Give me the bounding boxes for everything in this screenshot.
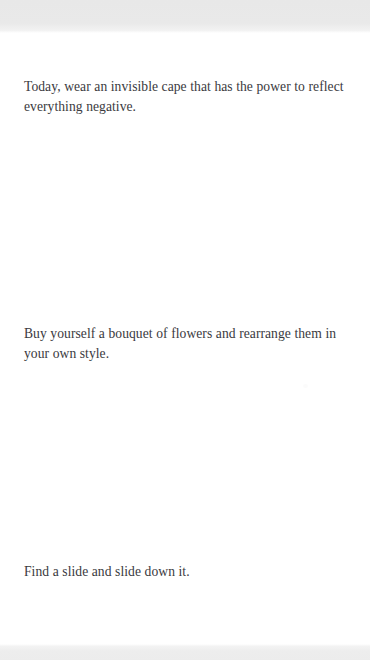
list-item: Today, wear an invisible cape that has t…: [24, 77, 351, 117]
bottom-nav-band: [0, 644, 370, 660]
app-screen: Today, wear an invisible cape that has t…: [0, 0, 370, 660]
image-artifact: [303, 384, 308, 388]
list-item: Find a slide and slide down it.: [24, 562, 351, 582]
prompt-list: Today, wear an invisible cape that has t…: [0, 33, 370, 644]
top-status-band: [0, 0, 370, 33]
list-item: Buy yourself a bouquet of flowers and re…: [24, 324, 351, 364]
